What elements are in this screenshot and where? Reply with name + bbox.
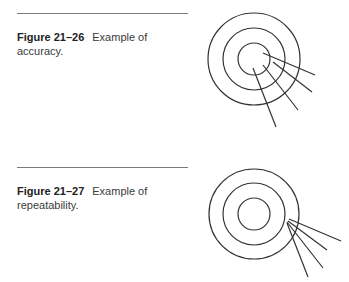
target-repeatability-icon bbox=[209, 169, 341, 277]
target-accuracy-icon bbox=[208, 13, 315, 127]
arrow-shaft bbox=[289, 219, 341, 241]
target-ring bbox=[223, 183, 285, 245]
figure-illustrations bbox=[0, 0, 349, 282]
target-ring bbox=[238, 198, 270, 230]
arrow-shaft bbox=[263, 53, 315, 75]
arrow-shaft bbox=[287, 223, 308, 277]
target-ring bbox=[208, 13, 300, 105]
arrow-shaft bbox=[287, 222, 323, 268]
